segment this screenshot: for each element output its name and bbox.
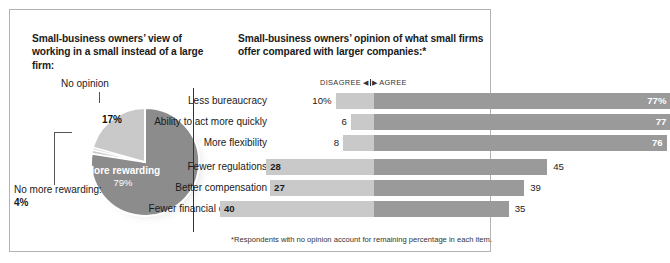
bar-value-agree: 76 — [641, 137, 663, 148]
bar-value-agree: 39 — [530, 182, 541, 193]
infographic-frame: Small-business owners’ view of working i… — [9, 9, 491, 252]
bar-row: Ability to act more quickly677 — [190, 113, 502, 131]
pie-label-no-more-rewarding-text: No more rewarding: — [14, 184, 102, 195]
bar-agree — [374, 93, 670, 109]
diverging-bar-chart: Less bureaucracy10%77%Ability to act mor… — [190, 92, 502, 222]
bar-agree — [374, 201, 509, 217]
bar-disagree — [220, 201, 374, 217]
bar-row: Better compensation2739 — [190, 179, 502, 197]
bar-row-label: Ability to act more quickly — [154, 116, 267, 127]
bar-row-label: More flexibility — [204, 137, 267, 148]
bar-value-disagree: 6 — [325, 116, 347, 127]
bar-value-disagree: 40 — [224, 203, 235, 214]
leader-line-no-more-rewarding — [54, 132, 72, 185]
bar-row-label: Better compensation — [175, 182, 267, 193]
right-arrow-icon: ▶ — [372, 78, 377, 87]
axis-legend-agree: AGREE — [379, 78, 407, 87]
bar-row: Fewer financial constraints4035 — [190, 200, 502, 218]
pie-label-no-opinion: No opinion — [61, 78, 109, 89]
leader-line-no-opinion — [99, 92, 100, 103]
bar-value-agree: 35 — [515, 203, 526, 214]
bar-value-agree: 45 — [553, 161, 564, 172]
pie-label-more-rewarding-text: More rewarding — [86, 165, 160, 176]
pie-label-no-more-rewarding: No more rewarding: 4% — [14, 184, 102, 209]
bar-value-disagree: 27 — [274, 182, 285, 193]
left-arrow-icon: ◀ — [363, 78, 368, 87]
bar-agree — [374, 159, 547, 175]
bar-disagree — [351, 114, 374, 130]
bar-value-agree: 77 — [644, 116, 666, 127]
bar-value-disagree: 28 — [270, 161, 281, 172]
bar-disagree — [266, 159, 374, 175]
bar-row: Less bureaucracy10%77% — [190, 92, 502, 110]
bar-agree — [374, 114, 670, 130]
axis-legend: DISAGREE ◀▶ AGREE — [320, 78, 407, 87]
bar-disagree — [336, 93, 375, 109]
bar-value-disagree: 8 — [317, 137, 339, 148]
bar-row: Fewer regulations2845 — [190, 158, 502, 176]
left-panel-title: Small-business owners’ view of working i… — [32, 32, 217, 72]
right-panel-title: Small-business owners’ opinion of what s… — [238, 32, 500, 59]
bar-row-label: Less bureaucracy — [188, 95, 267, 106]
bar-value-agree: 77% — [644, 95, 666, 106]
pie-value-no-opinion: 17% — [102, 114, 122, 125]
bar-agree — [374, 135, 667, 151]
axis-legend-disagree: DISAGREE — [320, 78, 361, 87]
bar-row-label: Fewer regulations — [188, 161, 267, 172]
bar-agree — [374, 180, 524, 196]
bar-row: More flexibility876 — [190, 134, 502, 152]
chart-footnote: *Respondents with no opinion account for… — [210, 235, 492, 244]
bar-disagree — [343, 135, 374, 151]
bar-disagree — [270, 180, 374, 196]
pie-value-no-more-rewarding: 4% — [14, 197, 28, 208]
axis-divider — [370, 79, 371, 86]
bar-value-disagree: 10% — [310, 95, 332, 106]
